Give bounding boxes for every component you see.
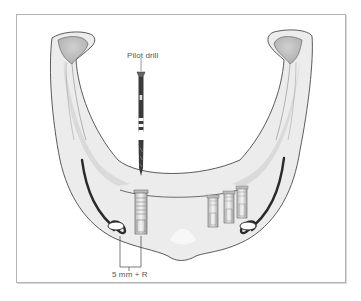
mandible-illustration xyxy=(0,0,361,301)
pilot-drill xyxy=(137,58,145,176)
mandible-bone xyxy=(50,30,312,261)
implant-right-3 xyxy=(236,186,248,218)
dimension-label: 5 mm + R xyxy=(112,270,148,279)
implant-right-2 xyxy=(223,191,235,223)
implant-right-1 xyxy=(207,195,219,227)
pilot-drill-label: Pilot drill xyxy=(127,51,158,60)
implant-left xyxy=(134,190,148,234)
